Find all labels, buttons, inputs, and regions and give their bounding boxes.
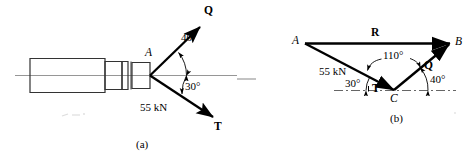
figure-container: A Q T 40° 30° 55 kN (a) A B C R Q T 55 k… <box>0 0 474 164</box>
angle-label-110-diagram-b: 110° <box>383 50 404 61</box>
point-label-a-diagram-b: A <box>292 35 299 47</box>
vector-label-t-diagram-b: T <box>372 83 380 95</box>
angle-40-arc <box>179 53 187 76</box>
vector-label-r-diagram-b: R <box>371 27 379 39</box>
angle-label-30-diagram-a: 30° <box>185 81 200 92</box>
angle-110-leader-left <box>368 59 382 71</box>
point-label-b-diagram-b: B <box>455 36 462 48</box>
diagram-a-graphics <box>15 27 237 117</box>
scan-artifacts <box>62 113 85 116</box>
angle-110-leader-right <box>410 59 421 68</box>
scan-artifacts-b <box>454 112 456 114</box>
angle-label-30-diagram-b: 30° <box>345 78 360 89</box>
caption-b: (b) <box>390 113 403 124</box>
point-label-c-diagram-b: C <box>390 93 398 105</box>
force-magnitude-label-diagram-a: 55 kN <box>140 102 167 113</box>
vector-label-q-diagram-a: Q <box>204 5 213 17</box>
caption-a: (a) <box>136 139 148 150</box>
point-label-a-diagram-a: A <box>145 47 152 59</box>
angle-label-40-diagram-a: 40° <box>181 32 196 43</box>
force-magnitude-label-diagram-b: 55 kN <box>319 66 346 77</box>
angle-label-40-diagram-b: 40° <box>430 74 445 85</box>
vector-label-t-diagram-a: T <box>214 121 222 133</box>
vector-label-q-diagram-b: Q <box>424 60 433 72</box>
figure-vector-graphics <box>0 0 474 164</box>
